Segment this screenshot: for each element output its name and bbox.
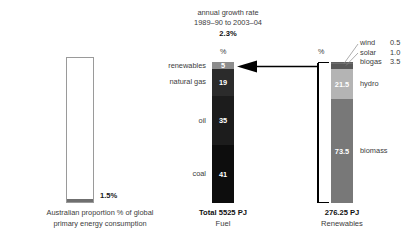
renewables-legend-label-hydro: hydro	[360, 79, 379, 88]
renewables-legend-label-wind: wind	[360, 38, 375, 47]
fuel-segment-coal: 41	[212, 145, 234, 203]
renewables-legend-value-wind: 0.5	[390, 38, 400, 47]
fuel-label-natural-gas: natural gas	[140, 77, 206, 86]
fuel-value-oil: 35	[219, 116, 227, 125]
fuel-percent-axis-caption: %	[220, 47, 226, 56]
renewables-legend-value-biogas: 3.5	[390, 57, 400, 66]
renewables-legend-value-solar: 1.0	[390, 48, 400, 57]
australian-share-value-label: 1.5%	[100, 191, 117, 200]
renewables-value-biomass: 73.5	[335, 147, 349, 156]
renewables-total-label: 276.25 PJ	[292, 207, 392, 218]
renewables-legend-label-biomass: biomass	[360, 146, 388, 155]
australian-share-caption: Australian proportion % of global primar…	[0, 208, 200, 229]
growth-rate-line1: annual growth rate	[168, 8, 288, 18]
renewables-axis-label: Renewables	[292, 218, 392, 229]
fuel-segment-natural-gas: 19	[212, 69, 234, 96]
figure-canvas: annual growth rate 1989–90 to 2003–04 2.…	[0, 0, 409, 245]
fuel-segment-oil: 35	[212, 96, 234, 145]
fuel-axis-label: Fuel	[173, 218, 273, 229]
renewables-segment-biomass: 73.5	[331, 99, 353, 203]
fuel-label-oil: oil	[140, 116, 206, 125]
fuel-label-coal: coal	[140, 169, 206, 178]
fuel-total-label: Total 5525 PJ	[173, 207, 273, 218]
renewables-legend-label-solar: solar	[360, 48, 376, 57]
fuel-stacked-bar: 5193541	[212, 62, 234, 203]
australian-share-caption-line2: primary energy consumption	[0, 219, 200, 230]
growth-rate-note: annual growth rate 1989–90 to 2003–04 2.…	[168, 8, 288, 39]
renewables-segment-hydro: 21.5	[331, 69, 353, 99]
renewables-arrow	[237, 61, 318, 73]
australian-share-caption-line1: Australian proportion % of global	[0, 208, 200, 219]
renewables-stacked-bar: 21.573.5	[331, 62, 353, 203]
australian-share-bar	[66, 57, 94, 203]
fuel-segment-renewables: 5	[212, 62, 234, 69]
australian-share-fill	[67, 199, 93, 202]
renewables-value-hydro: 21.5	[335, 80, 349, 89]
renewables-percent-axis-caption: %	[318, 47, 324, 56]
fuel-value-coal: 41	[219, 170, 227, 179]
renewables-legend-label-biogas: biogas	[360, 57, 382, 66]
fuel-value-natural-gas: 19	[219, 78, 227, 87]
growth-rate-value: 2.3%	[168, 28, 288, 39]
fuel-label-renewables: renewables	[140, 61, 206, 70]
fuel-caption: Total 5525 PJ Fuel	[173, 207, 273, 229]
renewables-bracket	[318, 63, 329, 203]
renewables-caption: 276.25 PJ Renewables	[292, 207, 392, 229]
growth-rate-line2: 1989–90 to 2003–04	[168, 18, 288, 28]
